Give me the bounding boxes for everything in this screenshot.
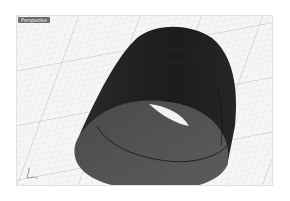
perspective-viewport[interactable]: Perspective x y (16, 15, 273, 186)
axis-x-label: x (36, 175, 38, 180)
axis-widget-icon: x y (23, 167, 39, 181)
axis-y-label: y (28, 167, 30, 171)
scene-canvas[interactable] (17, 16, 273, 186)
viewport-title-tab[interactable]: Perspective (18, 17, 50, 23)
